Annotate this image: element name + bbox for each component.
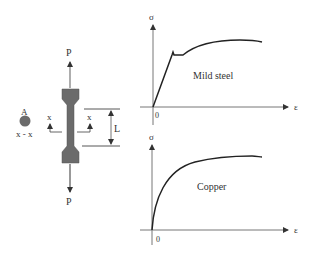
specimen-body bbox=[62, 89, 79, 163]
area-label: A bbox=[21, 107, 28, 117]
section-label-right: x bbox=[87, 112, 92, 122]
x-axis-label: ε bbox=[294, 102, 298, 112]
x-axis-label: ε bbox=[294, 225, 298, 235]
y-axis-label: σ bbox=[149, 132, 154, 142]
stress-strain-curve bbox=[152, 156, 262, 230]
cross-section-icon bbox=[20, 116, 31, 127]
load-label-bottom: P bbox=[66, 196, 72, 207]
material-label: Copper bbox=[197, 181, 227, 192]
section-marker-left-icon bbox=[50, 124, 62, 132]
y-axis-label: σ bbox=[149, 12, 154, 22]
graph-copper: σ ε 0 Copper bbox=[140, 132, 298, 245]
material-label: Mild steel bbox=[193, 70, 233, 81]
origin-label: 0 bbox=[156, 235, 160, 244]
section-label-left: x bbox=[47, 112, 52, 122]
cross-section-caption: x - x bbox=[16, 129, 33, 139]
load-label-top: P bbox=[66, 47, 72, 58]
tensile-test-diagram: P P x x L A x - x σ ε 0 Mild steel σ bbox=[0, 0, 316, 256]
gauge-length-label: L bbox=[114, 123, 120, 134]
tensile-specimen: P P x x L A x - x bbox=[16, 47, 120, 207]
origin-label: 0 bbox=[155, 111, 159, 120]
graph-mild-steel: σ ε 0 Mild steel bbox=[140, 12, 298, 125]
section-marker-right-icon bbox=[77, 124, 90, 132]
